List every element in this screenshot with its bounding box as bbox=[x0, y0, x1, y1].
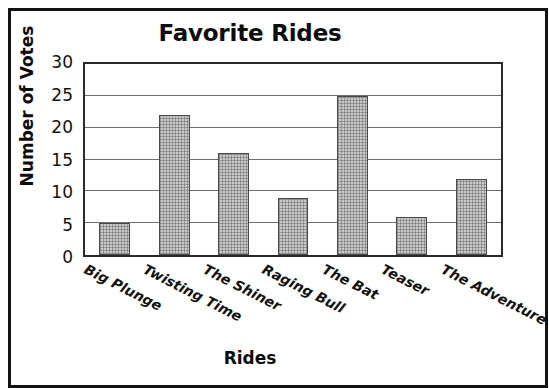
bar[interactable] bbox=[337, 96, 368, 255]
y-tick-label: 10 bbox=[51, 182, 73, 202]
x-axis-tick-labels: Big PlungeTwisting TimeThe ShinerRaging … bbox=[83, 257, 503, 352]
bar[interactable] bbox=[278, 198, 309, 255]
bar-series bbox=[85, 64, 501, 255]
bar[interactable] bbox=[159, 115, 190, 255]
bar[interactable] bbox=[218, 153, 249, 255]
bar[interactable] bbox=[99, 223, 130, 255]
y-tick-label: 0 bbox=[62, 247, 73, 267]
y-tick-label: 30 bbox=[51, 52, 73, 72]
y-axis-tick-labels: 051015202530 bbox=[0, 62, 79, 257]
y-tick-label: 5 bbox=[62, 215, 73, 235]
x-axis-title: Rides bbox=[0, 348, 500, 368]
plot-area bbox=[83, 62, 503, 257]
y-tick-label: 15 bbox=[51, 150, 73, 170]
y-tick-label: 20 bbox=[51, 117, 73, 137]
x-tick-label: Twisting Time bbox=[141, 261, 245, 325]
y-tick-label: 25 bbox=[51, 85, 73, 105]
bar[interactable] bbox=[396, 217, 427, 255]
chart-title: Favorite Rides bbox=[0, 20, 500, 46]
x-tick-label: Teaser bbox=[379, 261, 432, 299]
bar[interactable] bbox=[456, 179, 487, 255]
